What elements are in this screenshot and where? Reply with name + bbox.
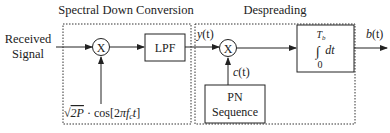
integrator-lower-limit: 0 — [318, 59, 323, 70]
despreading-block-diagram: Spectral Down Conversion Despreading Rec… — [0, 0, 390, 133]
pn-label-line1: PN — [227, 90, 243, 104]
lpf-block: LPF — [145, 34, 185, 61]
lpf-label: LPF — [155, 41, 176, 55]
signal-c-label: c(t) — [233, 65, 250, 79]
integrator-block: Tb ∫ dt 0 — [297, 25, 354, 72]
signal-y-label: y(t) — [196, 27, 214, 41]
input-label-line2: Signal — [12, 47, 44, 61]
input-label-line1: Received — [5, 32, 52, 46]
despreading-group-title: Despreading — [243, 3, 307, 17]
pn-label-line2: Sequence — [212, 105, 258, 119]
mixer-2: X — [220, 40, 237, 57]
output-label: b(t) — [366, 27, 383, 41]
mixer-1: X — [93, 39, 110, 56]
mixer-1-symbol: X — [97, 41, 106, 55]
spectral-group-title: Spectral Down Conversion — [58, 3, 194, 17]
carrier-label: √2P·cos[2πfct] — [64, 106, 140, 121]
mixer-2-symbol: X — [224, 42, 233, 56]
integrator-dt: dt — [325, 43, 335, 57]
pn-sequence-block: PN Sequence — [205, 85, 265, 123]
